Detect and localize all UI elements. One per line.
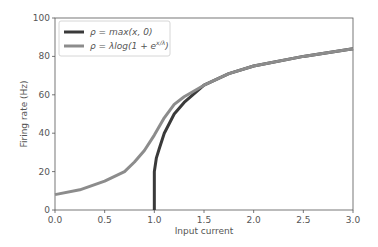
x-axis-ticks: 0.00.51.01.52.02.53.0 bbox=[48, 210, 361, 225]
data-lines bbox=[55, 49, 353, 210]
x-axis-label: Input current bbox=[175, 226, 234, 236]
x-tick-label: 3.0 bbox=[346, 215, 361, 225]
x-tick-label: 0.5 bbox=[98, 215, 112, 225]
relu-line bbox=[154, 49, 353, 210]
legend: ρ = max(x, 0) ρ = λlog(1 + ex/λ) bbox=[59, 21, 170, 56]
x-tick-label: 1.5 bbox=[197, 215, 211, 225]
softplus-line bbox=[55, 49, 353, 195]
y-axis-ticks: 020406080100 bbox=[33, 13, 55, 215]
y-tick-label: 60 bbox=[39, 90, 51, 100]
y-tick-label: 100 bbox=[33, 13, 50, 23]
y-tick-label: 20 bbox=[39, 167, 51, 177]
y-axis-label: Firing rate (Hz) bbox=[19, 80, 29, 147]
legend-label-relu: ρ = max(x, 0) bbox=[90, 27, 152, 37]
x-tick-label: 2.0 bbox=[247, 215, 262, 225]
x-tick-label: 2.5 bbox=[296, 215, 310, 225]
x-tick-label: 0.0 bbox=[48, 215, 63, 225]
x-tick-label: 1.0 bbox=[147, 215, 162, 225]
y-tick-label: 80 bbox=[39, 51, 51, 61]
y-tick-label: 40 bbox=[39, 128, 51, 138]
y-tick-label: 0 bbox=[44, 205, 50, 215]
firing-rate-chart: 0.00.51.01.52.02.53.0 020406080100 Input… bbox=[0, 0, 378, 247]
